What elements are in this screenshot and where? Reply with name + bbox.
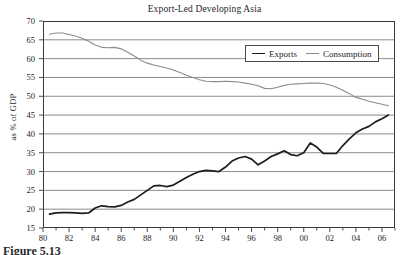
y-tick-label: 55 <box>1 72 35 82</box>
x-tick-label: 90 <box>160 233 186 243</box>
x-tick-label: 98 <box>265 233 291 243</box>
series-line-consumption <box>50 33 389 106</box>
legend-item-exports[interactable]: Exports <box>252 49 297 59</box>
series-line-exports <box>50 115 389 214</box>
x-tick-label: 80 <box>30 233 56 243</box>
y-tick-label: 65 <box>1 35 35 45</box>
y-tick-label: 30 <box>1 167 35 177</box>
y-tick-label: 25 <box>1 185 35 195</box>
y-tick-label: 20 <box>1 204 35 214</box>
line-swatch-icon <box>306 53 319 54</box>
x-tick-label: 06 <box>369 233 395 243</box>
y-tick-label: 70 <box>1 16 35 26</box>
x-tick-label: 00 <box>291 233 317 243</box>
y-tick-label: 50 <box>1 91 35 101</box>
y-tick-label: 35 <box>1 148 35 158</box>
x-tick-label: 96 <box>239 233 265 243</box>
x-tick-label: 04 <box>343 233 369 243</box>
line-swatch-icon <box>252 53 265 54</box>
y-axis-title: as % of GDP <box>8 82 18 152</box>
legend-label-consumption: Consumption <box>323 49 372 59</box>
x-tick-label: 88 <box>134 233 160 243</box>
chart-title: Export-Led Developing Asia <box>0 4 409 14</box>
x-tick-label: 84 <box>82 233 108 243</box>
chart-legend: Exports Consumption <box>245 45 379 62</box>
y-tick-label: 15 <box>1 223 35 233</box>
x-tick-label: 82 <box>56 233 82 243</box>
legend-label-exports: Exports <box>269 49 297 59</box>
x-tick-label: 86 <box>108 233 134 243</box>
x-tick-label: 94 <box>213 233 239 243</box>
x-tick-label: 92 <box>186 233 212 243</box>
figure-caption: Figure 5.13 <box>3 245 61 255</box>
figure-container: Export-Led Developing Asia as % of GDP 7… <box>0 0 409 255</box>
y-tick-label: 40 <box>1 129 35 139</box>
y-tick-label: 45 <box>1 110 35 120</box>
x-tick-label: 02 <box>317 233 343 243</box>
legend-item-consumption[interactable]: Consumption <box>306 49 372 59</box>
y-tick-label: 60 <box>1 54 35 64</box>
